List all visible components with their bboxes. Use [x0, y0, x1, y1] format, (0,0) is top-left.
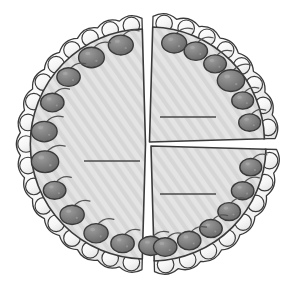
cherry-highlight	[115, 39, 120, 43]
cherry-body	[232, 92, 254, 109]
cherry-body	[178, 231, 201, 250]
cherry-body	[57, 68, 80, 87]
cherry-body	[31, 121, 57, 141]
cherry-highlight	[169, 249, 171, 251]
cherry-highlight	[253, 124, 255, 126]
cherry-highlight	[224, 74, 230, 78]
cherry-highlight	[85, 52, 90, 56]
cherry-highlight	[224, 206, 229, 209]
cherry-highlight	[218, 66, 220, 68]
cherry-highlight	[168, 37, 173, 41]
cherry-highlight	[117, 238, 122, 241]
cherry-body	[239, 114, 261, 131]
cherry-highlight	[145, 240, 150, 243]
cherry-highlight	[66, 209, 71, 212]
cherry-highlight	[237, 186, 242, 189]
cherry-highlight	[38, 126, 43, 130]
cherry-highlight	[210, 59, 215, 62]
cherry-body	[162, 33, 187, 53]
cherry-highlight	[95, 60, 97, 62]
cherry-body	[41, 93, 64, 112]
cherry-highlight	[72, 79, 74, 81]
cherry-highlight	[244, 118, 248, 121]
cherry-highlight	[246, 102, 248, 104]
cherry-highlight	[56, 104, 58, 106]
cherry-highlight	[214, 230, 216, 232]
cherry-highlight	[125, 47, 127, 49]
cherry-highlight	[48, 134, 50, 136]
cherry-body	[218, 203, 241, 221]
cherry-highlight	[49, 164, 51, 166]
cherry-highlight	[160, 242, 165, 245]
cherry-highlight	[63, 72, 68, 75]
cherry-body	[60, 205, 84, 224]
cherry-highlight	[178, 45, 180, 47]
cherry-body	[84, 224, 108, 243]
cherry-highlight	[76, 217, 78, 219]
cherry-body	[184, 42, 207, 61]
cherry-highlight	[245, 162, 249, 165]
cherry-body	[79, 47, 105, 67]
cherry-highlight	[237, 96, 241, 99]
cherry-highlight	[90, 228, 95, 231]
cherry-highlight	[49, 185, 54, 188]
cherry-highlight	[246, 193, 248, 195]
cherry-highlight	[193, 243, 195, 245]
cake-figure-root	[0, 0, 297, 288]
cherry-highlight	[254, 169, 256, 171]
cherry-highlight	[232, 213, 234, 215]
cherry-body	[240, 159, 262, 176]
cherry-body	[43, 181, 66, 199]
cherry-highlight	[235, 83, 237, 85]
cherry-body	[200, 220, 223, 238]
cherry-highlight	[38, 156, 44, 160]
cherry-highlight	[190, 46, 195, 49]
cherry-highlight	[126, 245, 128, 247]
cherry-highlight	[100, 235, 102, 237]
cherry-body	[111, 234, 134, 253]
cherry-highlight	[58, 192, 60, 194]
cherry-highlight	[184, 235, 189, 238]
cherry-body	[154, 238, 177, 257]
cake-pieces-layer	[16, 14, 279, 275]
cherry-highlight	[199, 53, 201, 55]
cherry-body	[31, 151, 58, 173]
cherry-highlight	[47, 97, 52, 100]
cake-illustration	[0, 0, 297, 288]
cherry-body	[108, 35, 133, 55]
cherry-body	[231, 182, 254, 200]
cherry-body	[204, 55, 227, 73]
cherry-highlight	[205, 223, 210, 226]
cherry-body	[217, 70, 244, 92]
